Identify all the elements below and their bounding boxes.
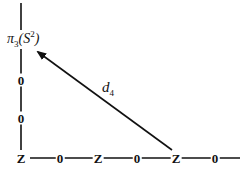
bottom-entry-5: Z: [171, 152, 182, 165]
bottom-entry-2: 0: [56, 152, 65, 165]
bottom-entry-6: 0: [211, 152, 220, 165]
bottom-entry-4: 0: [133, 152, 142, 165]
differential-arrow-d4: [38, 52, 172, 150]
pi-symbol: π: [7, 31, 14, 46]
vertical-entry-zero-upper: 0: [17, 74, 26, 87]
pi3-s2-label: π3(S2): [7, 30, 39, 49]
sphere-superscript: 2: [30, 29, 35, 39]
bottom-entry-1: Z: [16, 152, 27, 165]
differential-symbol: d: [102, 79, 110, 95]
vertical-entry-zero-lower: 0: [17, 112, 26, 125]
bottom-entry-3: Z: [93, 152, 104, 165]
diagram-canvas: [0, 0, 248, 173]
differential-subscript: 4: [110, 88, 115, 98]
differential-label: d4: [102, 80, 114, 98]
pi-subscript: 3: [14, 39, 19, 49]
